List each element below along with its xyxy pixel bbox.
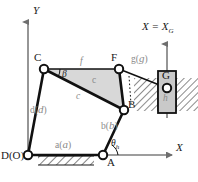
x-axis-label: X	[176, 142, 183, 153]
xg-axis-label-sub: G	[168, 27, 173, 35]
link-label-a-close: )	[68, 140, 71, 150]
link-label-d-close: )	[43, 105, 46, 115]
angle-label-theta-h: θh	[111, 139, 119, 151]
ground-hatching-base	[38, 156, 94, 165]
link-label-d-text: d(	[30, 105, 38, 115]
xg-axis-label-text: X = X	[142, 20, 168, 32]
link-label-g: g(g)	[131, 53, 148, 65]
y-axis-label: Y	[33, 5, 39, 16]
link-label-b: b(b)	[101, 120, 118, 132]
joint-label-A: A	[107, 157, 115, 168]
joint-label-B: B	[128, 99, 135, 110]
kinematic-linkage-figure: Y X X = XG D(O) A B C F G a(a) b(b) d(d)…	[0, 0, 198, 182]
joint-label-D: D(O)	[1, 150, 24, 161]
joint-label-F: F	[111, 52, 117, 63]
xg-axis-label: X = XG	[142, 21, 173, 35]
link-label-b-text: b(	[101, 121, 109, 131]
link-label-g-text: g(	[131, 54, 139, 64]
joint-label-C: C	[34, 52, 41, 63]
joint-B[interactable]	[120, 106, 128, 114]
slider-block-label-G: G	[162, 70, 170, 81]
joint-D[interactable]	[24, 151, 32, 159]
link-label-h: h	[163, 94, 168, 104]
link-label-a: a(a)	[55, 139, 71, 151]
link-label-c-upper: c	[92, 76, 96, 86]
link-label-c-lower: c	[76, 92, 80, 102]
angle-label-theta-sub: h	[116, 143, 120, 151]
ground-hatch-fill	[38, 156, 94, 165]
angle-label-beta: β	[62, 70, 67, 80]
slider-hatch-right	[176, 78, 198, 111]
link-label-d: d(d)	[30, 104, 47, 116]
joint-C[interactable]	[40, 65, 48, 73]
link-label-f: f	[80, 57, 83, 67]
joint-G[interactable]	[163, 84, 171, 92]
link-label-g-close: )	[144, 54, 147, 64]
joint-F[interactable]	[115, 65, 123, 73]
joint-A[interactable]	[99, 151, 107, 159]
link-label-b-close: )	[114, 121, 117, 131]
